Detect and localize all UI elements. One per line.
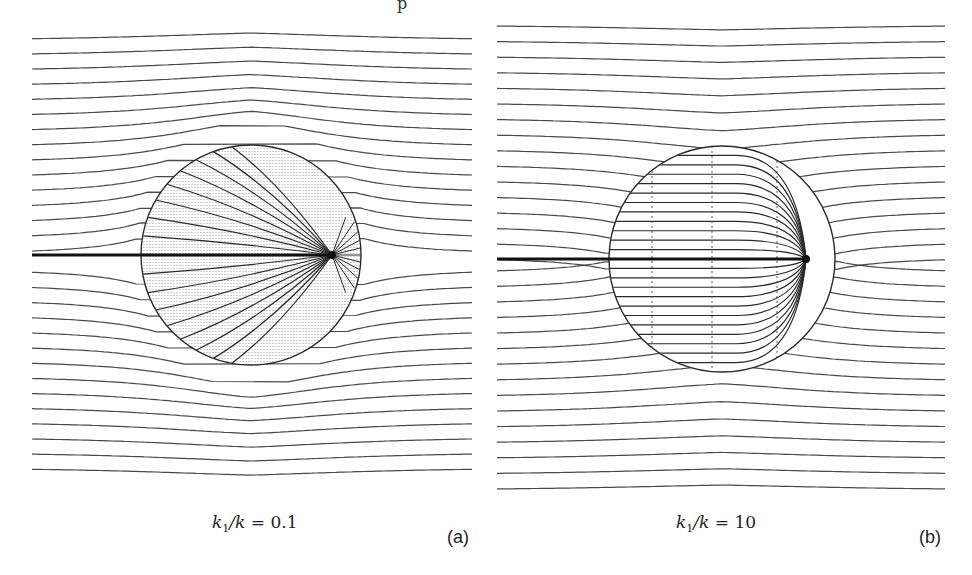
- caption-b-rest: /k =: [693, 512, 734, 532]
- panel-tag-b: (b): [919, 527, 941, 548]
- caption-b: k1/k = 10: [676, 512, 756, 535]
- caption-b-value: 10: [734, 512, 756, 532]
- caption-a-value: 0.1: [270, 512, 297, 532]
- panel-b: k1/k = 10 (b): [486, 0, 972, 575]
- caption-a-rest: /k =: [229, 512, 270, 532]
- field-line-plot-b: [486, 0, 972, 575]
- panel-a: k1/k = 0.1 (a): [0, 0, 486, 575]
- caption-a-k: k: [212, 512, 222, 532]
- caption-a: k1/k = 0.1: [212, 512, 297, 535]
- source-tip: [802, 255, 810, 263]
- source-tip: [328, 251, 336, 259]
- panel-tag-a: (a): [447, 527, 469, 548]
- field-line-plot-a: [0, 0, 486, 575]
- caption-b-k: k: [676, 512, 686, 532]
